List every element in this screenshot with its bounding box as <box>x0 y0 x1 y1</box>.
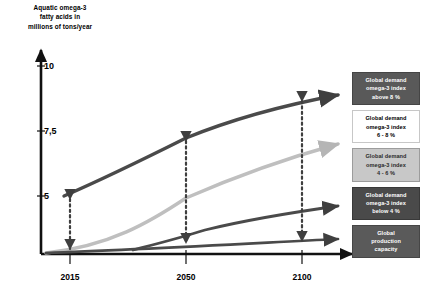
series-line-demand-6-8 <box>46 144 338 253</box>
legend-item-line-3: 6 - 8 % <box>355 131 417 139</box>
legend-item-line-2: omega-3 index <box>355 123 417 131</box>
series-line-demand-above-8 <box>64 95 338 196</box>
legend-item-demand-above-8: Global demand omega-3 index above 8 % <box>352 72 420 105</box>
legend-item-demand-4-6: Global demand omega-3 index 4 - 6 % <box>352 148 420 181</box>
legend-item-line-2: omega-3 index <box>355 161 417 169</box>
y-tick-label-10: 10 <box>44 61 54 71</box>
y-tick-label-5: 5 <box>44 191 49 201</box>
legend-item-demand-6-8: Global demand omega-3 index 6 - 8 % <box>352 110 420 143</box>
legend-item-line-1: Global demand <box>355 76 417 84</box>
legend-item-line-3: above 8 % <box>355 93 417 101</box>
legend-item-line-3: capacity <box>355 245 417 253</box>
legend-item-production-capacity: Global production capacity <box>352 225 420 258</box>
legend-item-line-1: Global demand <box>355 114 417 122</box>
legend-item-line-3: 4 - 6 % <box>355 169 417 177</box>
legend-item-line-1: Global demand <box>355 152 417 160</box>
legend-item-line-2: omega-3 index <box>355 199 417 207</box>
legend-item-line-1: Global demand <box>355 191 417 199</box>
x-tick-label-2015: 2015 <box>61 272 80 282</box>
legend-item-line-1: Global <box>355 229 417 237</box>
chart-legend: Global demand omega-3 index above 8 % Gl… <box>352 72 420 263</box>
y-tick-label-7-5: 7,5 <box>44 126 57 136</box>
x-tick-label-2100: 2100 <box>293 272 312 282</box>
legend-item-line-2: production <box>355 237 417 245</box>
legend-item-line-3: below 4 % <box>355 207 417 215</box>
chart-container: Aquatic omega-3 fatty acids in millions … <box>0 0 423 302</box>
x-tick-label-2050: 2050 <box>177 272 196 282</box>
legend-item-demand-below-4: Global demand omega-3 index below 4 % <box>352 187 420 220</box>
legend-item-line-2: omega-3 index <box>355 84 417 92</box>
